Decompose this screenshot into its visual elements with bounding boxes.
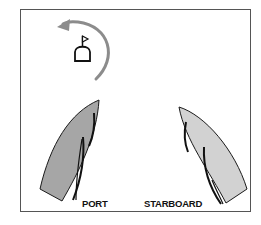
- mark-buoy-icon: [75, 36, 90, 61]
- starboard-label: STARBOARD: [144, 199, 202, 209]
- port-boat-icon: [40, 100, 99, 201]
- port-label: PORT: [82, 199, 108, 209]
- diagram-canvas: [0, 0, 261, 225]
- starboard-boat-icon: [179, 107, 247, 204]
